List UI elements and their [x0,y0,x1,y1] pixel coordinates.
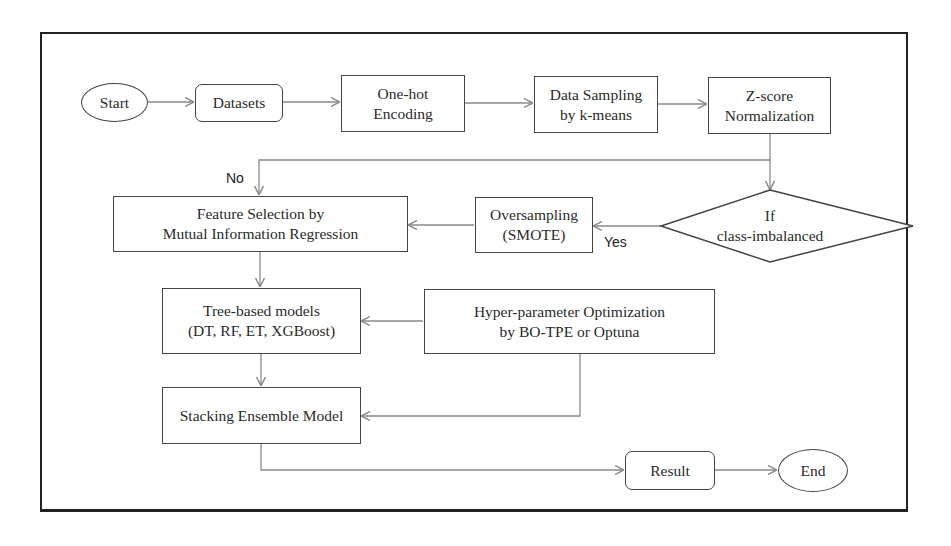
edge-label-yes: Yes [604,234,627,250]
edge-no-feature-selection [259,160,770,194]
end-label: End [801,461,826,481]
result-label: Result [650,461,690,481]
data-sampling-label: Data Sampling by k-means [550,85,643,125]
feature-selection-node[interactable]: Feature Selection by Mutual Information … [113,196,408,252]
hyperparameter-optimization-node[interactable]: Hyper-parameter Optimization by BO-TPE o… [424,289,715,354]
data-sampling-node[interactable]: Data Sampling by k-means [534,76,658,133]
decision-label: If class-imbalanced [680,206,860,246]
tree-models-label: Tree-based models (DT, RF, ET, XGBoost) [188,301,335,341]
oversampling-node[interactable]: Oversampling (SMOTE) [475,197,593,253]
datasets-node[interactable]: Datasets [195,84,283,122]
zscore-normalization-label: Z-score Normalization [725,86,815,126]
stacking-ensemble-label: Stacking Ensemble Model [180,406,344,426]
start-label: Start [100,93,129,113]
edge-label-no: No [226,170,244,186]
flowchart-canvas: Start Datasets One-hot Encoding Data Sam… [0,0,951,546]
result-node[interactable]: Result [625,451,715,490]
edge-hyper-stacking [362,354,580,416]
end-node[interactable]: End [778,449,848,492]
edge-stacking-result [261,444,623,470]
feature-selection-label: Feature Selection by Mutual Information … [163,204,358,244]
hyperparameter-optimization-label: Hyper-parameter Optimization by BO-TPE o… [474,302,665,342]
datasets-label: Datasets [213,93,266,113]
oversampling-label: Oversampling (SMOTE) [490,205,578,245]
zscore-normalization-node[interactable]: Z-score Normalization [708,77,831,134]
tree-models-node[interactable]: Tree-based models (DT, RF, ET, XGBoost) [162,288,361,354]
start-node[interactable]: Start [81,83,148,122]
one-hot-encoding-node[interactable]: One-hot Encoding [341,75,465,132]
stacking-ensemble-node[interactable]: Stacking Ensemble Model [162,387,361,444]
one-hot-encoding-label: One-hot Encoding [373,84,432,124]
